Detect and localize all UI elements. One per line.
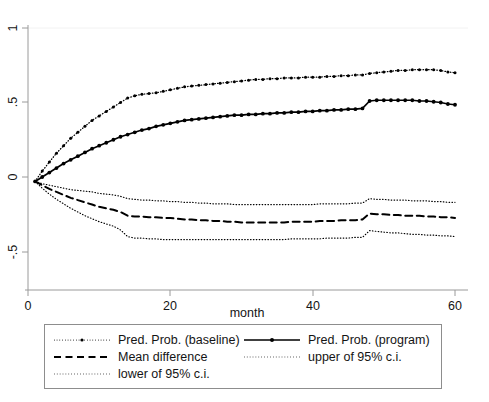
y-tick-label-1: 1 [6, 24, 20, 31]
legend-spacer [241, 365, 441, 382]
data-point-marker [218, 115, 222, 119]
legend-row: Pred. Prob. (baseline) Pred. Prob. (prog… [45, 331, 441, 348]
data-point-marker [83, 151, 87, 155]
series-mean-difference-path [35, 181, 455, 222]
data-point-marker [354, 73, 357, 76]
legend-row: Mean difference upper of 95% c.i. [45, 348, 441, 365]
data-point-marker [97, 144, 101, 148]
data-point-marker [276, 77, 279, 80]
data-point-marker [247, 79, 250, 82]
data-point-marker [105, 110, 108, 113]
data-point-marker [268, 112, 272, 116]
data-point-marker [453, 103, 457, 107]
legend-item-lower-ci[interactable]: lower of 95% c.i. [45, 365, 241, 382]
data-point-marker [439, 101, 443, 105]
data-point-marker [304, 76, 307, 79]
legend-item-upper-ci[interactable]: upper of 95% c.i. [241, 348, 441, 365]
data-point-marker [147, 92, 150, 95]
data-point-marker [346, 107, 350, 111]
legend-key-dotted-marker [53, 333, 111, 347]
data-point-marker [197, 117, 201, 121]
x-tick-label-60: 60 [448, 299, 462, 313]
data-point-marker [76, 154, 80, 158]
data-point-marker [297, 110, 301, 114]
data-point-marker [240, 113, 244, 117]
data-point-marker [368, 99, 372, 103]
data-point-marker [190, 118, 194, 122]
data-point-marker [176, 120, 180, 124]
data-point-marker [69, 137, 72, 140]
data-point-marker [403, 98, 407, 102]
data-point-marker [404, 69, 407, 72]
data-point-marker [389, 70, 392, 73]
data-point-marker [112, 138, 116, 142]
legend-label-mean-difference: Mean difference [118, 350, 207, 364]
legend-item-program[interactable]: Pred. Prob. (program) [241, 331, 441, 348]
data-point-marker [432, 100, 436, 104]
data-point-marker [225, 114, 229, 118]
data-point-marker [197, 84, 200, 87]
data-point-marker [226, 81, 229, 84]
legend-key-solid-marker [243, 333, 301, 347]
data-point-marker [382, 70, 385, 73]
series-lower-ci-path [35, 181, 455, 239]
legend-item-mean-difference[interactable]: Mean difference [45, 348, 241, 365]
data-point-marker [297, 76, 300, 79]
data-point-marker [361, 73, 364, 76]
y-tick-label-0: 0 [6, 173, 20, 180]
chart-legend: Pred. Prob. (baseline) Pred. Prob. (prog… [44, 324, 442, 389]
data-point-marker [289, 110, 293, 114]
data-point-marker [368, 72, 371, 75]
series-mean-difference [35, 181, 455, 222]
data-point-marker [91, 119, 94, 122]
data-point-marker [446, 70, 449, 73]
data-point-marker [361, 107, 365, 111]
data-point-marker [410, 98, 414, 102]
data-point-marker [69, 158, 73, 162]
x-tick-label-20: 20 [163, 299, 177, 313]
data-point-marker [311, 76, 314, 79]
data-point-marker [396, 98, 400, 102]
data-point-marker [119, 101, 122, 104]
data-point-marker [339, 108, 343, 112]
data-point-marker [233, 80, 236, 83]
data-point-marker [325, 109, 329, 113]
data-point-marker [119, 135, 123, 139]
data-point-marker [126, 97, 129, 100]
data-point-marker [62, 144, 65, 147]
data-point-marker [140, 128, 144, 132]
data-point-marker [254, 78, 257, 81]
data-point-marker [133, 130, 137, 134]
data-point-marker [397, 69, 400, 72]
data-point-marker [425, 99, 429, 103]
data-point-marker [55, 166, 59, 170]
data-point-marker [112, 105, 115, 108]
data-point-marker [40, 175, 44, 179]
chart-figure: 1 .5 0 -.5 0 20 40 60 month Pred. Prob [0, 0, 489, 402]
series-layer [33, 68, 457, 239]
x-axis-title: month [230, 306, 265, 320]
series-pred-prob-baseline [34, 68, 457, 183]
data-point-marker [169, 88, 172, 91]
data-point-marker [90, 147, 94, 151]
data-point-marker [154, 124, 158, 128]
data-point-marker [375, 98, 379, 102]
legend-item-baseline[interactable]: Pred. Prob. (baseline) [45, 331, 241, 348]
data-point-marker [62, 162, 66, 166]
data-point-marker [133, 94, 136, 97]
data-point-marker [389, 98, 393, 102]
series-upper-ci [35, 181, 455, 204]
x-tick-label-40: 40 [306, 299, 320, 313]
legend-key-dotted-lower [53, 367, 111, 381]
data-point-marker [290, 76, 293, 79]
data-point-marker [247, 113, 251, 117]
y-tick-label-0.5: .5 [6, 97, 20, 107]
data-point-marker [104, 141, 108, 145]
data-point-marker [340, 74, 343, 77]
legend-label-lower-ci: lower of 95% c.i. [118, 367, 210, 381]
series-pred-prob-program-path [35, 100, 455, 181]
data-point-marker [454, 71, 457, 74]
data-point-marker [304, 110, 308, 114]
data-point-marker [204, 83, 207, 86]
data-point-marker [333, 75, 336, 78]
